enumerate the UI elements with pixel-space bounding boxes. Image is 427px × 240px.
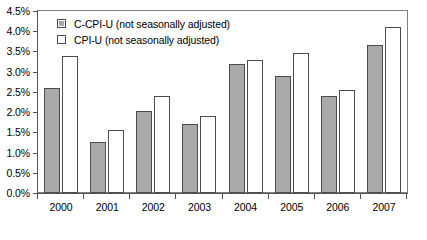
bar [229,64,245,193]
x-tick-label: 2002 [142,201,165,213]
y-tick-mark [33,92,37,93]
x-tick-label: 2007 [372,201,395,213]
y-tick-label: 4.5% [6,5,30,17]
bar [321,96,337,193]
x-tick-mark [406,194,407,199]
bar [339,90,355,193]
bar [182,124,198,193]
bar [90,142,106,193]
y-tick-label: 3.5% [6,45,30,57]
bar [62,56,78,194]
y-tick-mark [33,132,37,133]
y-tick-label: 2.5% [6,86,30,98]
x-axis [37,193,408,194]
legend-label: C-CPI-U (not seasonally adjusted) [74,18,230,30]
y-tick-label: 0.5% [6,167,30,179]
bar [275,76,291,193]
legend-item: C-CPI-U (not seasonally adjusted) [57,17,230,30]
bar-chart: 0.0%0.5%1.0%1.5%2.0%2.5%3.0%3.5%4.0%4.5%… [0,0,427,240]
x-tick-mark [268,194,269,199]
y-tick-mark [33,173,37,174]
x-tick-mark [83,194,84,199]
x-tick-label: 2000 [50,201,73,213]
y-tick-mark [33,112,37,113]
x-tick-mark [222,194,223,199]
x-tick-mark [360,194,361,199]
y-tick-label: 0.0% [6,187,30,199]
y-tick-mark [33,31,37,32]
bar [154,96,170,193]
legend-item: CPI-U (not seasonally adjusted) [57,33,230,46]
x-tick-label: 2001 [96,201,119,213]
bar [136,111,152,193]
y-tick-mark [33,11,37,12]
bar [367,45,383,193]
bar [44,88,60,193]
legend-swatch-icon [57,35,66,44]
x-tick-label: 2003 [188,201,211,213]
legend: C-CPI-U (not seasonally adjusted)CPI-U (… [57,17,230,49]
y-tick-label: 1.0% [6,147,30,159]
x-tick-mark [314,194,315,199]
y-tick-label: 4.0% [6,25,30,37]
x-tick-mark [175,194,176,199]
x-tick-mark [37,194,38,199]
y-tick-mark [33,51,37,52]
bar [247,60,263,193]
bar [293,53,309,193]
y-tick-label: 2.0% [6,106,30,118]
y-tick-mark [33,153,37,154]
y-tick-mark [33,72,37,73]
x-tick-label: 2004 [234,201,257,213]
x-tick-label: 2006 [326,201,349,213]
y-tick-label: 3.0% [6,66,30,78]
legend-swatch-icon [57,19,66,28]
legend-label: CPI-U (not seasonally adjusted) [74,34,219,46]
x-tick-mark [129,194,130,199]
bar [385,27,401,193]
bar [200,116,216,193]
x-tick-label: 2005 [280,201,303,213]
bar [108,130,124,193]
y-tick-label: 1.5% [6,126,30,138]
